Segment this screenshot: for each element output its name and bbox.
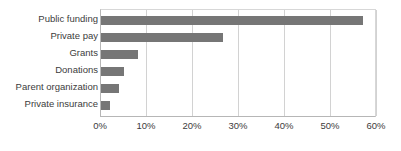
- x-tick-label-50pct: 50%: [320, 120, 339, 132]
- category-label-private-pay: Private pay: [2, 30, 98, 41]
- bar-row[interactable]: [101, 12, 377, 29]
- bar-row[interactable]: [101, 63, 377, 80]
- x-tick-label-60pct: 60%: [366, 120, 385, 132]
- bar-row[interactable]: [101, 97, 377, 114]
- bar-row[interactable]: [101, 29, 377, 46]
- category-label-private-insurance: Private insurance: [2, 98, 98, 109]
- bar-row[interactable]: [101, 46, 377, 63]
- category-label-donations: Donations: [2, 64, 98, 75]
- horizontal-bar-chart: Public fundingPrivate payGrantsDonations…: [0, 0, 401, 151]
- bar-parent-organization[interactable]: [101, 84, 119, 93]
- plot-area: [100, 9, 376, 117]
- x-axis-tick-labels: 0%10%20%30%40%50%60%: [100, 120, 376, 134]
- bar-row[interactable]: [101, 80, 377, 97]
- x-tick-label-30pct: 30%: [228, 120, 247, 132]
- category-label-public-funding: Public funding: [2, 13, 98, 24]
- x-tick-label-10pct: 10%: [136, 120, 155, 132]
- bar-public-funding[interactable]: [101, 16, 363, 25]
- category-axis: Public fundingPrivate payGrantsDonations…: [0, 9, 98, 117]
- bar-private-insurance[interactable]: [101, 101, 110, 110]
- x-tick-label-40pct: 40%: [274, 120, 293, 132]
- clipped-title-sliver: [0, 0, 401, 6]
- category-label-grants: Grants: [2, 47, 98, 58]
- bar-donations[interactable]: [101, 67, 124, 76]
- x-tick-label-20pct: 20%: [182, 120, 201, 132]
- bar-private-pay[interactable]: [101, 33, 223, 42]
- category-label-parent-organization: Parent organization: [2, 81, 98, 92]
- x-tick-label-0pct: 0%: [93, 120, 107, 132]
- bar-grants[interactable]: [101, 50, 138, 59]
